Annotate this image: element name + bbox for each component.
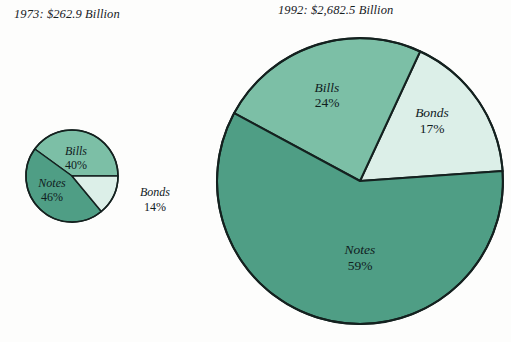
- left-label-bills-pct: 40%: [65, 158, 87, 172]
- right-label-notes-name: Notes: [344, 242, 376, 257]
- right-label-bills-name: Bills: [315, 80, 340, 95]
- charts-canvas: Bills 40% Notes 46% Bonds 14% Bills 24% …: [0, 0, 511, 342]
- left-label-bonds-name: Bonds: [140, 185, 170, 199]
- right-label-notes-pct: 59%: [348, 258, 373, 273]
- left-label-notes-pct: 46%: [41, 190, 63, 204]
- left-label-bills-name: Bills: [65, 144, 87, 158]
- right-pie-chart: Bills 24% Bonds 17% Notes 59%: [217, 38, 503, 324]
- left-pie-chart: Bills 40% Notes 46% Bonds 14%: [26, 130, 170, 222]
- right-label-bonds-name: Bonds: [415, 105, 449, 120]
- pie-chart-figure: 1973: $262.9 Billion 1992: $2,682.5 Bill…: [0, 0, 511, 342]
- right-label-bonds-pct: 17%: [420, 121, 445, 136]
- left-label-bonds-pct: 14%: [144, 200, 166, 214]
- right-label-bills-pct: 24%: [315, 95, 340, 110]
- left-label-notes-name: Notes: [37, 176, 66, 190]
